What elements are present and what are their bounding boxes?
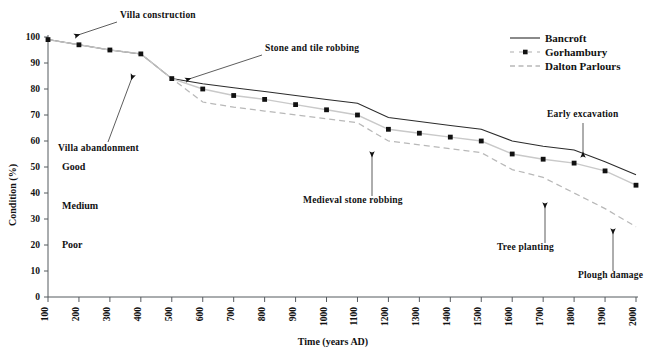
y-tick-label: 20 — [31, 240, 41, 250]
x-tick-label: 900 — [288, 307, 298, 322]
axes — [48, 35, 638, 297]
legend-swatch-square — [523, 50, 528, 55]
x-tick-label: 1900 — [597, 307, 607, 326]
annotation-arrow — [75, 22, 117, 36]
y-tick-label: 10 — [31, 266, 41, 276]
x-axis-title: Time (years AD) — [298, 336, 368, 348]
x-tick-label: 1500 — [473, 307, 483, 326]
annotation-label: Medieval stone robbing — [303, 195, 403, 205]
x-tick-label: 1200 — [380, 307, 390, 326]
annotation-label: Tree planting — [497, 242, 554, 252]
data-point-marker — [572, 161, 577, 166]
x-tick-label: 500 — [164, 307, 174, 322]
x-tick-label: 1100 — [349, 307, 359, 326]
legend-label: Dalton Parlours — [545, 60, 621, 72]
data-point-marker — [603, 169, 608, 174]
annotation-label: Villa abandonment — [58, 143, 140, 153]
data-point-marker — [46, 37, 51, 42]
y-axis-ticks: 0102030405060708090100 — [26, 32, 48, 302]
data-point-marker — [510, 152, 515, 157]
annotation-label: Villa construction — [120, 10, 196, 20]
data-point-marker — [262, 97, 267, 102]
y-tick-label: 70 — [31, 110, 41, 120]
x-tick-label: 1300 — [411, 307, 421, 326]
data-point-marker — [293, 102, 298, 107]
x-tick-label: 200 — [71, 307, 81, 322]
data-point-marker — [324, 107, 329, 112]
data-point-marker — [386, 127, 391, 132]
x-tick-label: 400 — [133, 307, 143, 322]
x-tick-label: 1400 — [442, 307, 452, 326]
data-point-marker — [169, 76, 174, 81]
legend-label: Bancroft — [545, 32, 587, 44]
annotation-arrow — [186, 55, 262, 80]
x-tick-label: 2000 — [628, 307, 638, 326]
y-tick-label: 80 — [31, 84, 41, 94]
condition-over-time-line-chart: 1002003004005006007008009001000110012001… — [0, 0, 663, 360]
data-point-marker — [448, 135, 453, 140]
condition-band-label: Medium — [62, 200, 99, 211]
x-tick-label: 800 — [257, 307, 267, 322]
condition-band-labels: GoodMediumPoor — [62, 161, 99, 250]
x-tick-label: 600 — [195, 307, 205, 322]
data-point-marker — [200, 87, 205, 92]
condition-band-label: Good — [62, 161, 86, 172]
data-point-marker — [541, 157, 546, 162]
x-tick-label: 1700 — [535, 307, 545, 326]
y-axis-title: Condition (%) — [7, 164, 19, 226]
condition-band-label: Poor — [62, 239, 83, 250]
data-point-marker — [634, 183, 639, 188]
annotation-arrow — [108, 75, 133, 142]
x-tick-label: 1600 — [504, 307, 514, 326]
annotation-label: Stone and tile robbing — [265, 43, 359, 53]
y-tick-label: 100 — [26, 32, 41, 42]
data-point-marker — [417, 131, 422, 136]
data-point-marker — [77, 42, 82, 47]
y-tick-label: 90 — [31, 58, 41, 68]
x-tick-label: 100 — [40, 307, 50, 322]
legend-label: Gorhambury — [545, 46, 608, 58]
y-tick-label: 50 — [31, 162, 41, 172]
y-tick-label: 60 — [31, 136, 41, 146]
data-point-marker — [107, 48, 112, 53]
y-tick-label: 40 — [31, 188, 41, 198]
annotation-label: Plough damage — [578, 270, 643, 280]
chart-container: 1002003004005006007008009001000110012001… — [0, 0, 663, 360]
y-tick-label: 30 — [31, 214, 41, 224]
annotation-label: Early excavation — [547, 109, 619, 119]
data-point-marker — [479, 139, 484, 144]
x-axis-ticks: 1002003004005006007008009001000110012001… — [40, 297, 638, 326]
data-point-marker — [231, 93, 236, 98]
x-tick-label: 1800 — [566, 307, 576, 326]
data-point-marker — [355, 113, 360, 118]
data-point-marker — [138, 52, 143, 57]
y-tick-label: 0 — [35, 292, 40, 302]
x-tick-label: 300 — [102, 307, 112, 322]
x-tick-label: 700 — [226, 307, 236, 322]
legend: BancroftGorhamburyDalton Parlours — [510, 32, 621, 72]
x-tick-label: 1000 — [319, 307, 329, 326]
